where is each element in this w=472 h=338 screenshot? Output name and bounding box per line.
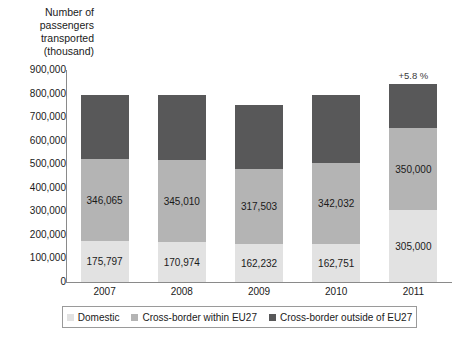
bar-segment-value-label: 305,000 (389, 241, 437, 252)
x-tick-label: 2007 (81, 286, 129, 297)
y-tick-label: 100,000 (4, 253, 66, 263)
bar-segment[interactable] (235, 105, 283, 169)
legend-label: Cross-border outside of EU27 (280, 312, 412, 323)
y-tick-label: 600,000 (4, 136, 66, 146)
y-tick-label: 400,000 (4, 183, 66, 193)
x-tick-label: 2011 (389, 286, 437, 297)
bar-column[interactable]: 162,232317,503 (235, 70, 283, 282)
bar-segment[interactable] (81, 95, 129, 159)
bar-segment-value-label: 345,010 (158, 196, 206, 207)
x-axis-line (66, 282, 452, 283)
legend-item[interactable]: Domestic (67, 312, 120, 323)
x-tick-label: 2010 (312, 286, 360, 297)
bar-segment[interactable] (389, 84, 437, 128)
legend-label: Cross-border within EU27 (142, 312, 257, 323)
bar-segment-value-label: 317,503 (235, 201, 283, 212)
y-tick-label: 800,000 (4, 89, 66, 99)
x-tick-label: 2008 (158, 286, 206, 297)
bar-column[interactable]: 162,751342,032 (312, 70, 360, 282)
legend-swatch-icon (269, 314, 276, 321)
chart-legend: DomesticCross-border within EU27Cross-bo… (62, 306, 417, 328)
stacked-bar-chart: Number of passengers transported (thousa… (0, 0, 472, 338)
y-tick-label: 700,000 (4, 112, 66, 122)
bar-column[interactable]: 170,974345,010 (158, 70, 206, 282)
plot-area: 175,797346,065170,974345,010162,232317,5… (66, 70, 452, 282)
y-tick-label: 500,000 (4, 159, 66, 169)
y-axis-tick-labels: 900,000800,000700,000600,000500,000400,0… (0, 0, 66, 338)
y-tick-label: 900,000 (4, 65, 66, 75)
growth-annotation: +5.8 % (389, 71, 437, 81)
x-tick-label: 2009 (235, 286, 283, 297)
legend-item[interactable]: Cross-border within EU27 (131, 312, 257, 323)
y-tick-label: 200,000 (4, 230, 66, 240)
legend-swatch-icon (131, 314, 138, 321)
y-tick-label: 300,000 (4, 206, 66, 216)
bar-segment-value-label: 170,974 (158, 257, 206, 268)
bar-segment-value-label: 342,032 (312, 198, 360, 209)
bar-segment[interactable] (158, 95, 206, 161)
bar-segment-value-label: 346,065 (81, 195, 129, 206)
bar-segment[interactable] (312, 95, 360, 163)
y-tick-label: 0 (4, 277, 66, 287)
bar-segment-value-label: 350,000 (389, 164, 437, 175)
bar-column[interactable]: 305,000350,000+5.8 % (389, 70, 437, 282)
bar-column[interactable]: 175,797346,065 (81, 70, 129, 282)
bar-segment-value-label: 162,751 (312, 258, 360, 269)
bar-segment-value-label: 162,232 (235, 258, 283, 269)
legend-item[interactable]: Cross-border outside of EU27 (269, 312, 412, 323)
legend-swatch-icon (67, 314, 74, 321)
legend-label: Domestic (78, 312, 120, 323)
bar-segment-value-label: 175,797 (81, 256, 129, 267)
